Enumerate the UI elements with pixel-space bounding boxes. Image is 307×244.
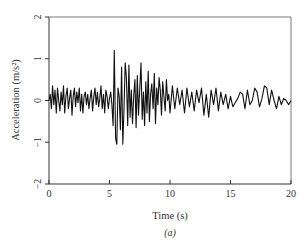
x-tick-label: 5 <box>107 188 112 199</box>
y-tick-label: 0 <box>32 98 43 103</box>
y-tick-label: 2 <box>32 15 43 20</box>
acceleration-chart: 05101520 −2−1012 Time (s) Acceleration (… <box>0 0 307 244</box>
y-tick-label: 1 <box>32 56 43 61</box>
x-tick-label: 15 <box>226 188 236 199</box>
acceleration-series-line <box>49 50 291 144</box>
x-tick-label: 0 <box>47 188 52 199</box>
x-tick-label: 10 <box>165 188 175 199</box>
y-tick-label: −1 <box>32 137 43 148</box>
plot-frame <box>49 17 291 184</box>
x-axis-ticks: 05101520 <box>47 180 297 199</box>
x-axis-title: Time (s) <box>152 210 188 222</box>
x-tick-label: 20 <box>286 188 296 199</box>
figure-caption: (a) <box>164 227 176 239</box>
y-tick-label: −2 <box>32 179 43 190</box>
y-axis-ticks: −2−1012 <box>32 15 49 190</box>
y-axis-title: Acceleration (m/s²) <box>10 59 22 141</box>
